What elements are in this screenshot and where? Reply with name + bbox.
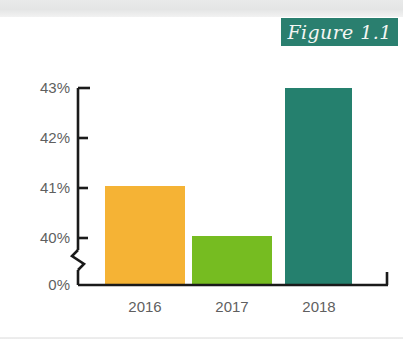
figure-page: Figure 1.1 43% 42% 41% 40% 0% xyxy=(0,0,403,346)
chart-axes xyxy=(0,0,403,346)
x-axis-label-2018: 2018 xyxy=(274,299,364,314)
bar-chart: 43% 42% 41% 40% 0% xyxy=(0,0,403,346)
x-axis-label-2016: 2016 xyxy=(100,299,190,314)
axis-break-icon xyxy=(72,250,84,270)
x-axis-label-2017: 2017 xyxy=(187,299,277,314)
